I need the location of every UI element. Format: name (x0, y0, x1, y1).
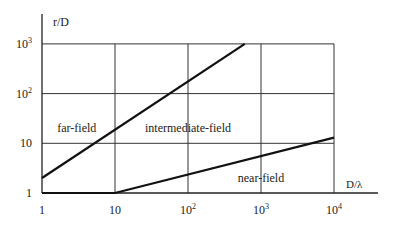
region-labels: far-fieldintermediate-fieldnear-field (57, 121, 284, 185)
y-tick-label: 10 (20, 136, 32, 150)
x-axis-label: D/λ (346, 178, 363, 190)
region-label: near-field (238, 171, 284, 185)
x-tick-label: 103 (253, 202, 269, 217)
log-log-chart: 110102103104 110102103 r/D D/λ far-field… (0, 0, 398, 229)
region-label: far-field (57, 121, 96, 135)
region-label: intermediate-field (145, 121, 231, 135)
x-tick-label: 102 (180, 202, 196, 217)
series-line (42, 44, 245, 178)
y-tick-label: 103 (16, 36, 32, 51)
x-tick-label: 104 (326, 202, 342, 217)
axes (42, 14, 378, 193)
x-tick-label: 10 (109, 203, 121, 217)
x-tick-label: 1 (39, 203, 45, 217)
y-tick-labels: 110102103 (16, 36, 32, 200)
y-axis-label: r/D (53, 15, 69, 29)
grid (42, 44, 334, 193)
y-tick-label: 1 (26, 186, 32, 200)
x-tick-labels: 110102103104 (39, 202, 342, 217)
y-tick-label: 102 (16, 86, 32, 101)
